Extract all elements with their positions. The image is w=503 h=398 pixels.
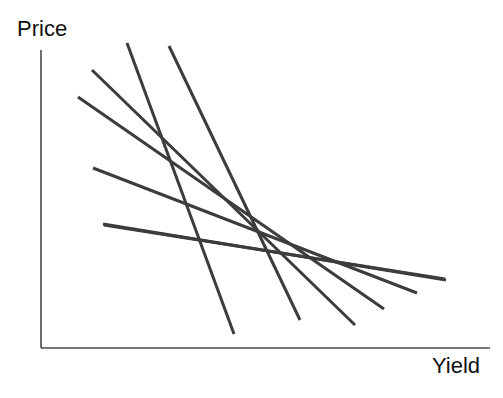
- chart-plot-area: [0, 0, 503, 398]
- chart-axes: [41, 50, 490, 348]
- y-axis-label: Price: [17, 18, 67, 40]
- price-yield-curves: [78, 43, 446, 334]
- price-yield-chart: Price Yield: [0, 0, 503, 398]
- chart-series-line: [169, 46, 300, 320]
- x-axis-label: Yield: [432, 355, 480, 377]
- chart-series-line: [78, 97, 384, 309]
